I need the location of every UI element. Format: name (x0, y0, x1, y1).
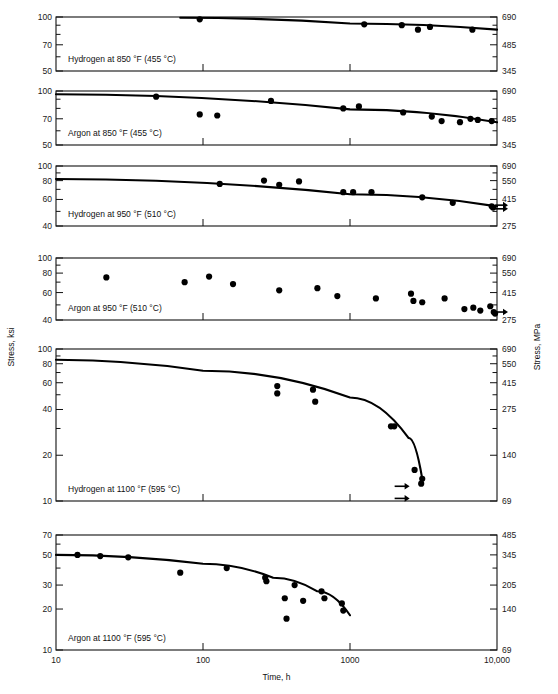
data-point (339, 600, 345, 606)
data-point (283, 616, 289, 622)
y-tick-label-left: 20 (43, 604, 53, 614)
panel-condition-label: Argon at 950 °F (510 °C) (68, 303, 162, 313)
data-point (391, 423, 397, 429)
y-tick-label-left: 80 (43, 176, 53, 186)
trend-line (180, 18, 497, 30)
trend-line (56, 360, 422, 479)
y-tick-label-right: 275 (502, 221, 516, 231)
data-point (282, 595, 288, 601)
data-point (419, 194, 425, 200)
y-tick-label-right: 345 (502, 140, 516, 150)
data-point (268, 98, 274, 104)
data-point (340, 607, 346, 613)
data-point (415, 27, 421, 33)
panel-5: 100806040201069055041527514069Hydrogen a… (38, 344, 517, 506)
y-tick-label-left: 50 (43, 550, 53, 560)
y-tick-label-left: 100 (38, 344, 52, 354)
data-point (489, 118, 495, 124)
chart-canvas: 1007050690485345Hydrogen at 850 °F (455 … (0, 0, 558, 694)
panel-condition-label: Argon at 850 °F (455 °C) (68, 128, 162, 138)
y-tick-label-left: 50 (43, 140, 53, 150)
y-tick-label-right: 550 (502, 176, 516, 186)
y-axis-title-left: Stress, ksi (6, 327, 16, 366)
y-tick-label-right: 485 (502, 40, 516, 50)
data-point (441, 295, 447, 301)
y-axis-title-right: Stress, MPa (532, 324, 542, 371)
y-tick-label-left: 100 (38, 161, 52, 171)
y-tick-label-right: 690 (502, 12, 516, 22)
y-tick-label-right: 415 (502, 378, 516, 388)
data-point (197, 111, 203, 117)
data-point (217, 181, 223, 187)
panel-condition-label: Hydrogen at 950 °F (510 °C) (68, 209, 176, 219)
data-point (292, 582, 298, 588)
data-point (361, 21, 367, 27)
data-point (439, 118, 445, 124)
data-point (467, 116, 473, 122)
panel-3: 100806040690550415275Hydrogen at 950 °F … (38, 161, 517, 231)
trend-line (56, 179, 497, 206)
y-tick-label-right: 69 (502, 645, 512, 655)
data-point (373, 295, 379, 301)
data-point (214, 112, 220, 118)
data-point (340, 189, 346, 195)
y-tick-label-left: 10 (43, 496, 53, 506)
x-tick-label: 10 (51, 655, 61, 665)
data-point (197, 16, 203, 22)
data-point (261, 178, 267, 184)
y-tick-label-right: 69 (502, 496, 512, 506)
data-point (356, 103, 362, 109)
plot-frame (56, 349, 497, 501)
data-point (399, 22, 405, 28)
y-tick-label-left: 60 (43, 378, 53, 388)
y-tick-label-right: 205 (502, 580, 516, 590)
data-point (321, 595, 327, 601)
y-tick-label-right: 690 (502, 253, 516, 263)
data-point (350, 189, 356, 195)
y-tick-label-left: 100 (38, 253, 52, 263)
data-point (457, 119, 463, 125)
y-tick-label-right: 550 (502, 359, 516, 369)
data-point (419, 476, 425, 482)
y-tick-label-right: 345 (502, 66, 516, 76)
y-tick-label-right: 275 (502, 404, 516, 414)
y-tick-label-right: 690 (502, 86, 516, 96)
y-tick-label-left: 70 (43, 40, 53, 50)
stress-rupture-figure: 1007050690485345Hydrogen at 850 °F (455 … (0, 0, 558, 694)
y-tick-label-left: 40 (43, 221, 53, 231)
data-point (74, 552, 80, 558)
y-tick-label-left: 100 (38, 12, 52, 22)
data-point (206, 273, 212, 279)
y-tick-label-left: 40 (43, 315, 53, 325)
x-tick-label: 100 (196, 655, 210, 665)
data-point (296, 178, 302, 184)
panel-condition-label: Argon at 1100 °F (595 °C) (68, 633, 166, 643)
data-point (230, 281, 236, 287)
y-tick-label-right: 345 (502, 550, 516, 560)
x-tick-label: 1000 (341, 655, 360, 665)
data-point (276, 182, 282, 188)
data-point (469, 27, 475, 33)
data-point (153, 94, 159, 100)
panel-2: 1007050690485345Argon at 850 °F (455 °C) (38, 86, 517, 150)
data-point (312, 399, 318, 405)
data-point (224, 565, 230, 571)
data-point (411, 467, 417, 473)
data-point (97, 553, 103, 559)
data-point (450, 200, 456, 206)
data-point (263, 578, 269, 584)
data-point (182, 279, 188, 285)
y-tick-label-right: 550 (502, 268, 516, 278)
data-point (400, 109, 406, 115)
x-tick-label: 10,000 (484, 655, 510, 665)
panel-4: 100806040690550415275Argon at 950 °F (51… (38, 253, 517, 325)
data-point (318, 588, 324, 594)
data-point (274, 390, 280, 396)
y-tick-label-left: 60 (43, 194, 53, 204)
data-point (419, 299, 425, 305)
data-point (477, 307, 483, 313)
data-point (368, 189, 374, 195)
data-point (461, 306, 467, 312)
y-tick-label-left: 10 (43, 645, 53, 655)
y-tick-label-left: 70 (43, 530, 53, 540)
